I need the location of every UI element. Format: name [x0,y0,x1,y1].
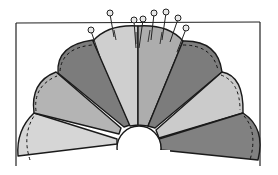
fan-block-illustration [0,0,278,175]
quilt-fan-diagram [0,0,278,175]
